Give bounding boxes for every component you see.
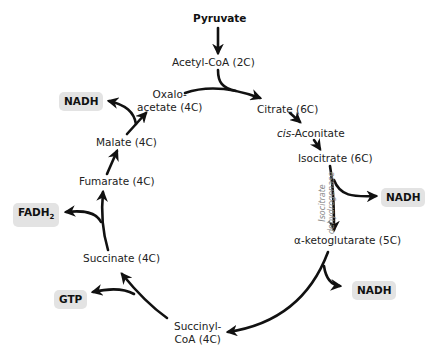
fadh2-base: FADH xyxy=(18,206,50,218)
succinate-label: Succinate (4C) xyxy=(83,252,160,265)
nadh-badge-ketoglutarate: NADH xyxy=(352,281,396,300)
succinyl-coa-line1: Succinyl- xyxy=(174,320,221,333)
arrow-fumarate-to-malate xyxy=(107,151,117,174)
fadh2-subscript: 2 xyxy=(50,213,55,221)
arrow-succinate-to-fumarate xyxy=(102,192,108,250)
oxaloacetate-line2: acetate (4C) xyxy=(137,101,202,114)
acetyl-coa-label: Acetyl-CoA (2C) xyxy=(172,56,255,69)
cis-prefix: cis xyxy=(277,127,291,139)
arrow-succinate-fadh2 xyxy=(66,211,101,222)
arrow-malate-nadh xyxy=(109,101,136,124)
isocitrate-dehydrogenase-label: Isocitrate dehydrogenase xyxy=(318,172,336,234)
arrow-succinylcoa-to-succinate xyxy=(122,274,167,318)
malate-label: Malate (4C) xyxy=(96,136,157,149)
enzyme-line2: dehydrogenase xyxy=(327,172,336,234)
succinyl-coa-line2: CoA (4C) xyxy=(174,333,221,346)
alpha-ketoglutarate-label: α-ketoglutarate (5C) xyxy=(294,234,401,247)
isocitrate-label: Isocitrate (6C) xyxy=(298,152,373,165)
oxaloacetate-line1: Oxalo- xyxy=(137,88,202,101)
fumarate-label: Fumarate (4C) xyxy=(79,175,155,188)
succinyl-coa-label: Succinyl- CoA (4C) xyxy=(174,320,221,346)
citrate-label: Citrate (6C) xyxy=(257,103,318,116)
aconitate-suffix: -Aconitate xyxy=(291,127,344,139)
gtp-badge: GTP xyxy=(54,290,87,309)
arrow-akg-nadh xyxy=(324,266,340,286)
cis-aconitate-label: cis-Aconitate xyxy=(277,127,345,140)
nadh-badge-malate: NADH xyxy=(59,92,103,111)
nadh-badge-isocitrate: NADH xyxy=(381,188,425,207)
oxaloacetate-label: Oxalo- acetate (4C) xyxy=(137,88,202,114)
arrow-aconitate-to-isocitrate xyxy=(314,140,320,149)
arrow-akg-to-succinylcoa xyxy=(228,252,328,332)
pyruvate-label: Pyruvate xyxy=(193,12,246,25)
arrow-succinylcoa-gtp xyxy=(93,290,134,294)
fadh2-badge: FADH2 xyxy=(13,203,59,227)
enzyme-line1: Isocitrate xyxy=(318,172,327,234)
arrow-isocitrate-nadh xyxy=(334,180,376,196)
